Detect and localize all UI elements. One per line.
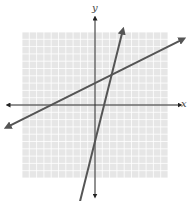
y-axis-label: y <box>92 2 98 13</box>
x-axis-label: x <box>181 98 187 109</box>
coordinate-plane <box>0 0 188 201</box>
